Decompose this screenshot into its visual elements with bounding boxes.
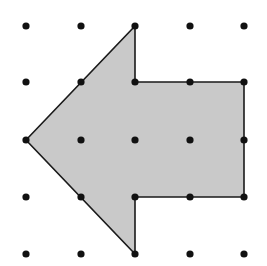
grid-dot-r2-c4 [240, 136, 247, 143]
grid-dot-r0-c3 [186, 22, 193, 29]
grid-dot-r2-c3 [186, 136, 193, 143]
grid-dot-r4-c2 [131, 250, 138, 257]
grid-dot-r1-c3 [186, 78, 193, 85]
grid-dot-r0-c4 [240, 22, 247, 29]
grid-dot-r1-c0 [22, 78, 29, 85]
dot-grid-diagram [0, 0, 267, 266]
grid-dot-r3-c3 [186, 193, 193, 200]
grid-dot-r4-c4 [240, 250, 247, 257]
grid-dot-r2-c0 [22, 136, 29, 143]
grid-dot-r4-c3 [186, 250, 193, 257]
grid-dot-r4-c0 [22, 250, 29, 257]
grid-dot-r0-c0 [22, 22, 29, 29]
grid-dot-r3-c0 [22, 193, 29, 200]
grid-dot-r3-c2 [131, 193, 138, 200]
grid-dot-r2-c1 [77, 136, 84, 143]
grid-dot-r3-c4 [240, 193, 247, 200]
grid-dot-r4-c1 [77, 250, 84, 257]
grid-dot-r1-c1 [77, 78, 84, 85]
grid-dot-r2-c2 [131, 136, 138, 143]
grid-dot-r0-c1 [77, 22, 84, 29]
grid-dot-r0-c2 [131, 22, 138, 29]
grid-dot-r1-c4 [240, 78, 247, 85]
grid-dot-r3-c1 [77, 193, 84, 200]
grid-dot-r1-c2 [131, 78, 138, 85]
